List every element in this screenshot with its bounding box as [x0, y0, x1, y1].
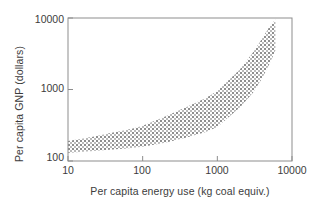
chart-figure: Per capita GNP (dollars) 10000 1000 100 …	[0, 0, 326, 207]
plot-area	[0, 0, 326, 207]
band-group	[68, 20, 275, 153]
gnp-energy-band	[68, 20, 275, 153]
